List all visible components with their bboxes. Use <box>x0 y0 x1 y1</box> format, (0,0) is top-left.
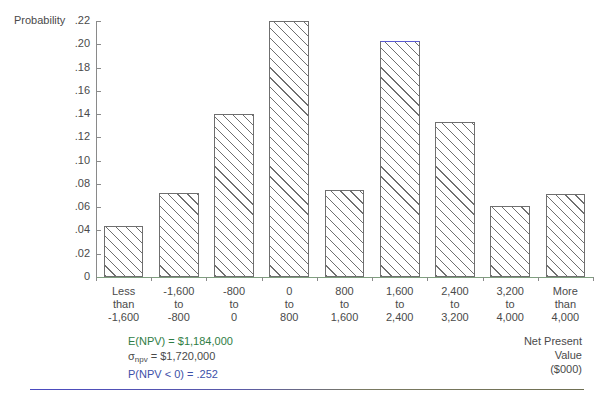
bar <box>380 41 420 277</box>
y-axis-tick-label: .20 <box>50 37 90 49</box>
x-axis-category-label: -1,600to-800 <box>151 285 206 324</box>
y-axis-tick-label: 0 <box>50 270 90 282</box>
bar <box>546 194 586 277</box>
x-axis-label-line: than <box>538 298 593 311</box>
x-axis-tick <box>483 277 484 281</box>
y-axis-tick-label: .10 <box>50 154 90 166</box>
x-axis-label-line: 0 <box>262 285 317 298</box>
x-axis-tick <box>372 277 373 281</box>
x-axis-label-line: 1,600 <box>372 285 427 298</box>
y-axis-tick-label: .06 <box>50 200 90 212</box>
x-axis-label-line: -800 <box>206 285 261 298</box>
x-axis-tick <box>206 277 207 281</box>
sigma-value: = $1,720,000 <box>148 350 216 362</box>
x-axis-label-line: More <box>538 285 593 298</box>
x-axis-title-line: Value <box>524 348 582 362</box>
x-axis-category-label: 1,600to2,400 <box>372 285 427 324</box>
x-axis-category-label: 800to1,600 <box>317 285 372 324</box>
x-axis-tick <box>538 277 539 281</box>
bar <box>104 226 144 277</box>
plot-area <box>96 21 593 277</box>
x-axis-label-line: 4,000 <box>538 311 593 324</box>
x-axis-label-line: -1,600 <box>151 285 206 298</box>
x-axis-label-line: to <box>427 298 482 311</box>
y-axis-tick-label: .14 <box>50 107 90 119</box>
x-axis-label-line: to <box>372 298 427 311</box>
y-axis-tick-label: .12 <box>50 130 90 142</box>
x-axis-label-line: Less <box>96 285 151 298</box>
x-axis-category-label: 0to800 <box>262 285 317 324</box>
bottom-divider <box>30 389 584 390</box>
y-axis-tick-label: .16 <box>50 84 90 96</box>
x-axis-label-line: 800 <box>262 311 317 324</box>
x-axis-label-line: -800 <box>151 311 206 324</box>
x-axis-label-line: to <box>483 298 538 311</box>
x-axis-tick <box>96 277 97 281</box>
x-axis-label-line: 2,400 <box>427 285 482 298</box>
y-axis-tick-label: .08 <box>50 177 90 189</box>
bar <box>214 114 254 277</box>
x-axis-label-line: than <box>96 298 151 311</box>
bar <box>269 21 309 277</box>
x-axis-title-line: Net Present <box>524 334 582 348</box>
x-axis-tick <box>151 277 152 281</box>
x-axis-label-line: 4,000 <box>483 311 538 324</box>
bar <box>325 190 365 277</box>
sigma-symbol: σ <box>128 350 135 362</box>
y-axis-tick-label: .04 <box>50 223 90 235</box>
x-axis-tick <box>317 277 318 281</box>
x-axis-tick <box>593 277 594 281</box>
annotation-sigma-npv: σnpv = $1,720,000 <box>128 349 233 367</box>
y-axis-tick-label: .18 <box>50 61 90 73</box>
x-axis-label-line: 1,600 <box>317 311 372 324</box>
x-axis-category-label: Morethan4,000 <box>538 285 593 324</box>
x-axis-label-line: 800 <box>317 285 372 298</box>
annotation-expected-npv: E(NPV) = $1,184,000 <box>128 334 233 349</box>
x-axis-tick <box>262 277 263 281</box>
y-axis-tick-label: .02 <box>50 247 90 259</box>
statistics-annotations: E(NPV) = $1,184,000 σnpv = $1,720,000 P(… <box>128 334 233 382</box>
x-axis-label-line: to <box>317 298 372 311</box>
x-axis-title-line: ($000) <box>524 362 582 376</box>
x-axis-label-line: -1,600 <box>96 311 151 324</box>
x-axis-title: Net PresentValue($000) <box>524 334 582 376</box>
bar <box>435 122 475 277</box>
x-axis-line <box>96 277 593 278</box>
x-axis-label-line: to <box>262 298 317 311</box>
x-axis-label-line: to <box>206 298 261 311</box>
y-axis-tick-label: .22 <box>50 14 90 26</box>
annotation-probability-negative: P(NPV < 0) = .252 <box>128 367 233 382</box>
bar <box>490 206 530 277</box>
x-axis-tick <box>427 277 428 281</box>
x-axis-label-line: 2,400 <box>372 311 427 324</box>
sigma-subscript: npv <box>135 355 148 364</box>
x-axis-category-label: Lessthan-1,600 <box>96 285 151 324</box>
x-axis-label-line: 3,200 <box>483 285 538 298</box>
x-axis-category-label: 3,200to4,000 <box>483 285 538 324</box>
npv-probability-distribution-chart: Probability .22.20.18.16.14.12.10.08.06.… <box>0 0 610 398</box>
x-axis-label-line: 3,200 <box>427 311 482 324</box>
x-axis-label-line: to <box>151 298 206 311</box>
x-axis-category-label: 2,400to3,200 <box>427 285 482 324</box>
x-axis-label-line: 0 <box>206 311 261 324</box>
x-axis-category-label: -800to0 <box>206 285 261 324</box>
bar <box>159 193 199 277</box>
